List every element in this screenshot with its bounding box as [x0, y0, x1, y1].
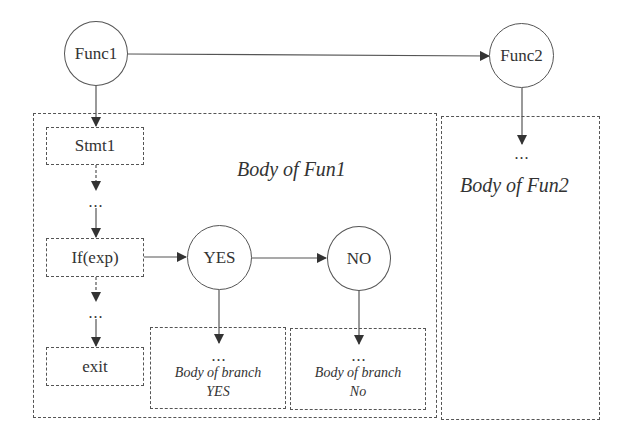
branch-yes-line2: YES	[151, 382, 285, 401]
ellipsis-fun2: ...	[515, 146, 530, 162]
branch-no-box: ... Body of branch No	[290, 328, 426, 410]
ellipsis-after-stmt1: ...	[89, 194, 104, 210]
if-exp-box: If(exp)	[46, 238, 144, 277]
body-of-fun1-label: Body of Fun1	[237, 158, 346, 181]
no-label: NO	[347, 249, 372, 269]
body-of-fun2-label: Body of Fun2	[460, 174, 569, 197]
branch-no-ellipsis: ...	[352, 348, 367, 364]
func1-node: Func1	[64, 21, 128, 86]
yes-node: YES	[187, 225, 252, 290]
yes-label: YES	[203, 248, 235, 268]
stmt1-label: Stmt1	[75, 136, 116, 156]
exit-label: exit	[82, 357, 108, 377]
func2-label: Func2	[500, 46, 543, 66]
ellipsis-after-if: ...	[89, 305, 104, 321]
func1-label: Func1	[75, 44, 118, 64]
branch-yes-box: ... Body of branch YES	[150, 327, 286, 409]
edge-func1-func2	[128, 54, 489, 56]
branch-no-line2: No	[291, 382, 425, 401]
exit-box: exit	[46, 347, 144, 386]
branch-yes-text: Body of branch YES	[151, 363, 285, 401]
func2-node: Func2	[489, 23, 554, 88]
branch-no-line1: Body of branch	[291, 363, 425, 382]
stmt1-box: Stmt1	[46, 127, 144, 165]
branch-yes-line1: Body of branch	[151, 363, 285, 382]
branch-no-text: Body of branch No	[291, 363, 425, 401]
branch-yes-ellipsis: ...	[212, 348, 227, 364]
no-node: NO	[327, 226, 391, 291]
if-exp-label: If(exp)	[71, 248, 118, 268]
